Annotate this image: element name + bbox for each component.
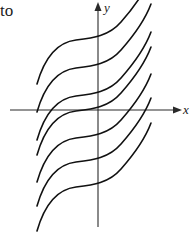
curve-2 <box>37 4 151 112</box>
curve-3 <box>37 32 151 140</box>
x-axis-arrow-icon <box>173 107 182 114</box>
curve-group <box>37 0 151 231</box>
y-axis-arrow-icon <box>95 2 102 11</box>
curve-7 <box>37 123 151 231</box>
curve-family-diagram: x y <box>0 0 190 233</box>
x-axis-label: x <box>182 102 189 117</box>
curve-1 <box>37 0 151 84</box>
y-axis-label: y <box>102 0 110 15</box>
